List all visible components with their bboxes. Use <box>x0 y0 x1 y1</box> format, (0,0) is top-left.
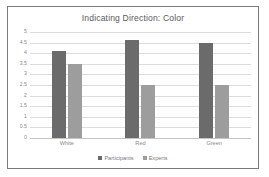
y-axis-tick-label: 4.5 <box>20 40 27 45</box>
bar-group <box>104 32 178 138</box>
y-axis-tick-label: 1.5 <box>20 104 27 109</box>
y-axis-tick-label: 4 <box>24 51 27 56</box>
legend-swatch-icon <box>98 156 102 160</box>
bar-group <box>30 32 104 138</box>
bar <box>141 85 155 138</box>
legend-label: Participants <box>104 155 133 161</box>
y-axis-tick-label: 3.5 <box>20 61 27 66</box>
chart-container: Indicating Direction: Color 00.511.522.5… <box>7 6 259 169</box>
gridline <box>30 138 251 139</box>
legend-swatch-icon <box>143 156 147 160</box>
bars-layer <box>30 32 251 138</box>
bar-group <box>177 32 251 138</box>
y-axis-tick-label: 1 <box>24 114 27 119</box>
bar <box>199 43 213 138</box>
bar <box>52 51 66 138</box>
plot-area: 00.511.522.533.544.55 <box>30 32 251 138</box>
y-axis-tick-label: 5 <box>24 29 27 34</box>
bar <box>215 85 229 138</box>
y-axis-tick-label: 2 <box>24 93 27 98</box>
y-axis-tick-label: 2.5 <box>20 82 27 87</box>
x-axis-tick-label: Green <box>206 140 222 146</box>
y-axis-tick-label: 0 <box>24 135 27 140</box>
bar <box>125 40 139 138</box>
bar <box>68 64 82 138</box>
y-axis-tick-label: 0.5 <box>20 125 27 130</box>
legend-item[interactable]: Participants <box>98 155 133 161</box>
x-axis-labels: WhiteRedGreen <box>30 140 251 152</box>
y-axis-tick-label: 3 <box>24 72 27 77</box>
chart-legend: ParticipantsExperts <box>8 155 258 161</box>
legend-item[interactable]: Experts <box>143 155 168 161</box>
x-axis-tick-label: White <box>60 140 74 146</box>
chart-title: Indicating Direction: Color <box>8 13 258 23</box>
legend-label: Experts <box>149 155 168 161</box>
x-axis-tick-label: Red <box>135 140 145 146</box>
